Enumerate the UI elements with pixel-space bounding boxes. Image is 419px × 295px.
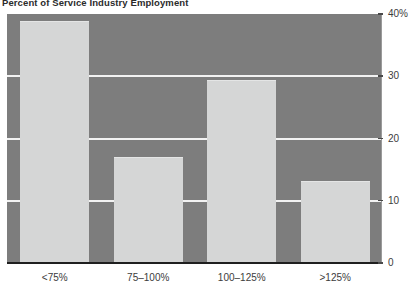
y-tick-label: 0 bbox=[388, 258, 394, 268]
bar-series bbox=[7, 14, 381, 263]
x-tick-label: 75–100% bbox=[102, 272, 196, 283]
x-tick-label: <75% bbox=[8, 272, 102, 283]
chart-title: Percent of Service Industry Employment bbox=[2, 0, 302, 8]
y-tick-label: 40% bbox=[388, 9, 408, 19]
y-tick-mark bbox=[378, 13, 383, 15]
y-tick-mark bbox=[378, 262, 383, 264]
y-tick-mark bbox=[378, 200, 383, 202]
bar bbox=[207, 80, 276, 263]
bar bbox=[301, 181, 370, 263]
x-tick-label: >125% bbox=[289, 272, 383, 283]
bar-chart-figure: Percent of Service Industry Employment 0… bbox=[0, 0, 419, 295]
bar bbox=[114, 157, 183, 263]
y-tick-mark bbox=[378, 138, 383, 140]
plot-area bbox=[7, 14, 381, 263]
x-axis-line bbox=[7, 262, 382, 264]
x-tick-label: 100–125% bbox=[195, 272, 289, 283]
y-tick-mark bbox=[378, 75, 383, 77]
y-tick-label: 30 bbox=[388, 71, 399, 81]
bar bbox=[20, 21, 89, 263]
y-tick-label: 10 bbox=[388, 196, 399, 206]
y-tick-label: 20 bbox=[388, 134, 399, 144]
